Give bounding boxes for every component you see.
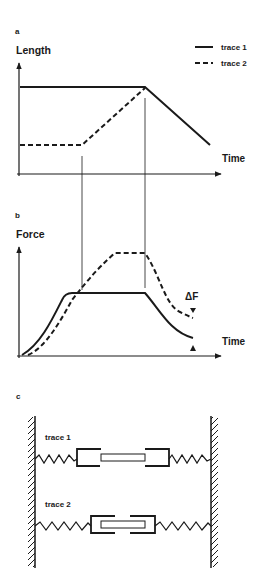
center-filament	[101, 454, 145, 461]
panel-c-label: c	[16, 392, 21, 401]
delta-f-arrow-down-icon	[190, 308, 196, 313]
row-trace-2-label: trace 2	[45, 500, 71, 509]
left-wall-hatch	[28, 417, 35, 567]
length-trace-2	[20, 88, 145, 145]
center-filament	[101, 521, 145, 528]
right-wall-hatch	[211, 417, 218, 567]
sarcomere-trace-1	[35, 449, 211, 466]
figure-canvas: a Length Time trace 1 trace 2 b Force Ti…	[0, 0, 266, 588]
force-trace-2	[28, 253, 193, 355]
left-spring	[35, 455, 77, 463]
panel-a-xlabel: Time	[222, 153, 246, 164]
right-bracket	[145, 449, 169, 466]
panel-a-ylabel: Length	[16, 44, 51, 56]
right-spring	[169, 455, 211, 463]
left-spring	[35, 522, 91, 530]
panel-a-label: a	[15, 27, 20, 36]
panel-a: a Length Time trace 1 trace 2	[15, 27, 247, 176]
right-spring	[155, 522, 211, 530]
legend-trace-2: trace 2	[221, 59, 247, 68]
panel-b: b Force Time ΔF	[15, 211, 246, 358]
sarcomere-trace-2	[35, 516, 211, 533]
panel-b-label: b	[15, 211, 20, 220]
row-trace-1-label: trace 1	[45, 433, 71, 442]
panel-c: c trace 1 trace 2	[16, 392, 218, 568]
delta-f-arrow-up-icon	[190, 345, 196, 351]
delta-f-label: ΔF	[185, 291, 198, 302]
panel-b-ylabel: Force	[16, 228, 45, 240]
panel-b-xlabel: Time	[222, 336, 246, 347]
force-trace-1	[22, 293, 193, 355]
legend-trace-1: trace 1	[221, 43, 247, 52]
left-bracket	[77, 449, 101, 466]
